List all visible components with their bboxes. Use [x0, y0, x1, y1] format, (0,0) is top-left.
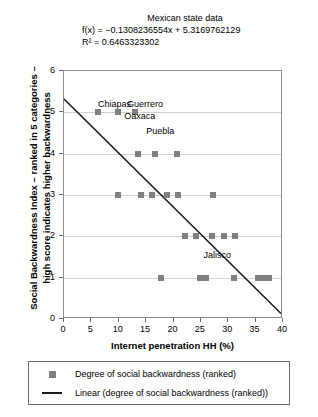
y-axis-title: Social Backwardness Index – ranked in 5 … — [27, 53, 53, 323]
data-point — [95, 109, 101, 115]
trend-line — [64, 71, 281, 317]
x-tick-label: 35 — [245, 324, 265, 334]
legend-label-markers: Degree of social backwardness (ranked) — [75, 369, 236, 380]
x-tick-label: 0 — [53, 324, 73, 334]
x-tick-label: 25 — [190, 324, 210, 334]
legend-label-trend: Linear (degree of social backwardness (r… — [75, 388, 268, 399]
x-axis-title: Internet penetration HH (%) — [63, 340, 282, 351]
x-tick-mark — [255, 318, 256, 322]
x-tick-mark — [118, 318, 119, 322]
x-tick-label: 15 — [135, 324, 155, 334]
legend-item-markers: Degree of social backwardness (ranked) — [29, 365, 289, 383]
x-tick-label: 30 — [217, 324, 237, 334]
data-point — [115, 109, 121, 115]
x-tick-mark — [90, 318, 91, 322]
x-tick-label: 10 — [108, 324, 128, 334]
x-tick-label: 40 — [272, 324, 292, 334]
data-point — [221, 233, 227, 239]
data-point — [138, 192, 144, 198]
y-tick-label: 5 — [39, 106, 55, 116]
data-point — [182, 233, 188, 239]
data-point — [232, 233, 238, 239]
data-point — [175, 192, 181, 198]
legend-item-trend: Linear (degree of social backwardness (r… — [29, 384, 289, 402]
y-axis-title-line1: Social Backwardness Index – ranked in 5 … — [28, 66, 39, 309]
y-tick-label: 4 — [39, 148, 55, 158]
legend-marker-swatch — [29, 371, 75, 378]
data-point — [197, 275, 203, 281]
data-point — [115, 192, 121, 198]
point-label-jalisco: Jalisco — [204, 250, 232, 260]
y-tick-label: 3 — [39, 189, 55, 199]
r-squared-value: R² = 0.6463323302 — [82, 36, 310, 48]
regression-equation: f(x) = −0.1308236554x + 5.3169762129 — [82, 24, 310, 36]
data-point — [231, 275, 237, 281]
data-point — [174, 151, 180, 157]
data-point — [149, 192, 155, 198]
data-point — [193, 233, 199, 239]
x-tick-label: 20 — [163, 324, 183, 334]
data-point — [203, 275, 209, 281]
point-label-puebla: Puebla — [146, 126, 174, 136]
data-point — [266, 275, 272, 281]
x-tick-mark — [227, 318, 228, 322]
x-tick-mark — [282, 318, 283, 322]
equation-block: f(x) = −0.1308236554x + 5.3169762129 R² … — [60, 24, 310, 48]
chart-title: Mexican state data — [60, 12, 310, 24]
x-tick-label: 5 — [80, 324, 100, 334]
y-tick-label: 1 — [39, 272, 55, 282]
point-label-oaxaca: Oaxaca — [124, 111, 155, 121]
y-tick-label: 6 — [39, 65, 55, 75]
x-tick-mark — [145, 318, 146, 322]
y-tick-label: 0 — [39, 313, 55, 323]
legend-line-swatch — [29, 392, 75, 394]
data-point — [164, 192, 170, 198]
data-point — [135, 151, 141, 157]
plot-area: ChiapasGuerreroOaxacaPueblaJalisco — [63, 70, 282, 318]
x-tick-mark — [200, 318, 201, 322]
y-axis-title-line2: high score indicates higher backwardness — [41, 92, 52, 284]
y-tick-label: 2 — [39, 230, 55, 240]
data-point — [209, 233, 215, 239]
x-tick-mark — [173, 318, 174, 322]
chart-page: Mexican state data f(x) = −0.1308236554x… — [0, 0, 318, 417]
x-tick-mark — [63, 318, 64, 322]
data-point — [152, 151, 158, 157]
point-label-guerrero: Guerrero — [127, 99, 163, 109]
data-point — [210, 192, 216, 198]
title-block: Mexican state data f(x) = −0.1308236554x… — [60, 12, 310, 48]
data-point — [158, 275, 164, 281]
chart-legend: Degree of social backwardness (ranked) L… — [28, 361, 290, 405]
